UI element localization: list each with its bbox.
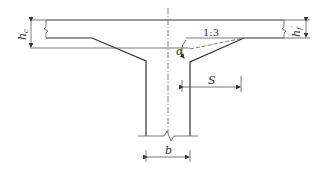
hf-label: hf′ <box>290 25 304 37</box>
s-label: S <box>208 74 216 87</box>
hc-label: hc <box>16 29 30 40</box>
right-break-mark <box>282 20 286 38</box>
t-beam-diagram: hc hf′ 1:3 α S b <box>0 0 326 171</box>
slope-label: 1:3 <box>203 27 219 38</box>
alpha-label: α <box>176 45 184 58</box>
left-break-mark <box>44 20 48 38</box>
web-break-mark <box>138 131 198 141</box>
left-haunch-web-outline <box>46 38 146 136</box>
b-label: b <box>165 144 172 157</box>
slope-line <box>190 38 244 49</box>
